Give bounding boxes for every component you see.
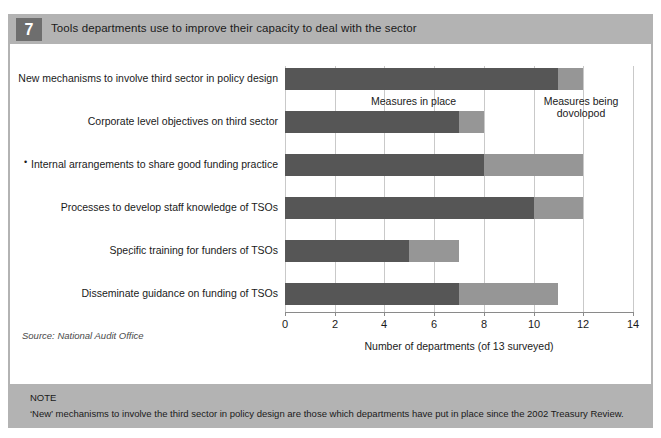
bar-segment-in-place	[285, 111, 459, 133]
x-tick-label: 10	[519, 318, 549, 330]
gridline	[285, 66, 286, 312]
bar-segment-in-place	[285, 283, 459, 305]
source-note: Source: National Audit Office	[22, 330, 144, 341]
note-label: NOTE	[30, 392, 56, 403]
x-tick-label: 4	[369, 318, 399, 330]
x-tick	[633, 312, 634, 316]
x-tick	[384, 312, 385, 316]
note-band: NOTE ‘New’ mechanisms to involve the thi…	[10, 388, 651, 426]
bar-segment-being-developed	[459, 111, 484, 133]
x-tick	[484, 312, 485, 316]
category-label: Disseminate guidance on funding of TSOs	[0, 287, 278, 299]
bullet-mark-icon: •	[24, 158, 27, 167]
gridline	[335, 66, 336, 312]
bar-segment-being-developed	[534, 197, 584, 219]
bar-segment-being-developed	[558, 68, 583, 90]
category-label: Internal arrangements to share good fund…	[0, 158, 278, 170]
bar-segment-being-developed	[409, 240, 459, 262]
legend-label-being-developed: Measures being dovolopod	[527, 95, 635, 119]
figure-title: Tools departments use to improve their c…	[51, 22, 417, 34]
x-axis-line	[285, 312, 634, 313]
bar-segment-in-place	[285, 68, 558, 90]
category-label: Processes to develop staff knowledge of …	[0, 201, 278, 213]
category-label: Corporate level objectives on third sect…	[0, 115, 278, 127]
x-tick	[285, 312, 286, 316]
legend-line-1: Measures being	[544, 95, 619, 107]
figure-number-badge: 7	[16, 18, 42, 41]
x-tick-label: 14	[618, 318, 648, 330]
x-tick	[335, 312, 336, 316]
note-text: ‘New’ mechanisms to involve the third se…	[30, 408, 624, 419]
x-tick	[583, 312, 584, 316]
category-axis: New mechanisms to involve third sector i…	[0, 66, 278, 312]
category-label: New mechanisms to involve third sector i…	[0, 72, 278, 84]
figure-header: 7 Tools departments use to improve their…	[8, 14, 653, 44]
bar-segment-in-place	[285, 240, 409, 262]
x-tick-label: 8	[469, 318, 499, 330]
x-tick-label: 6	[419, 318, 449, 330]
bar-segment-in-place	[285, 154, 484, 176]
legend-line-2: dovolopod	[557, 107, 605, 119]
gridline	[484, 66, 485, 312]
category-label: Specific training for funders of TSOs	[0, 244, 278, 256]
x-tick	[534, 312, 535, 316]
figure-container: 7 Tools departments use to improve their…	[0, 0, 661, 438]
x-tick-label: 2	[320, 318, 350, 330]
bar-segment-in-place	[285, 197, 534, 219]
x-tick-label: 12	[568, 318, 598, 330]
bullet-mark-icon: ·	[128, 250, 131, 259]
bar-segment-being-developed	[459, 283, 558, 305]
x-axis-title: Number of departments (of 13 surveyed)	[285, 340, 633, 352]
x-tick-label: 0	[270, 318, 300, 330]
legend-label-in-place: Measures in place	[371, 95, 456, 107]
bar-segment-being-developed	[484, 154, 583, 176]
x-tick	[434, 312, 435, 316]
